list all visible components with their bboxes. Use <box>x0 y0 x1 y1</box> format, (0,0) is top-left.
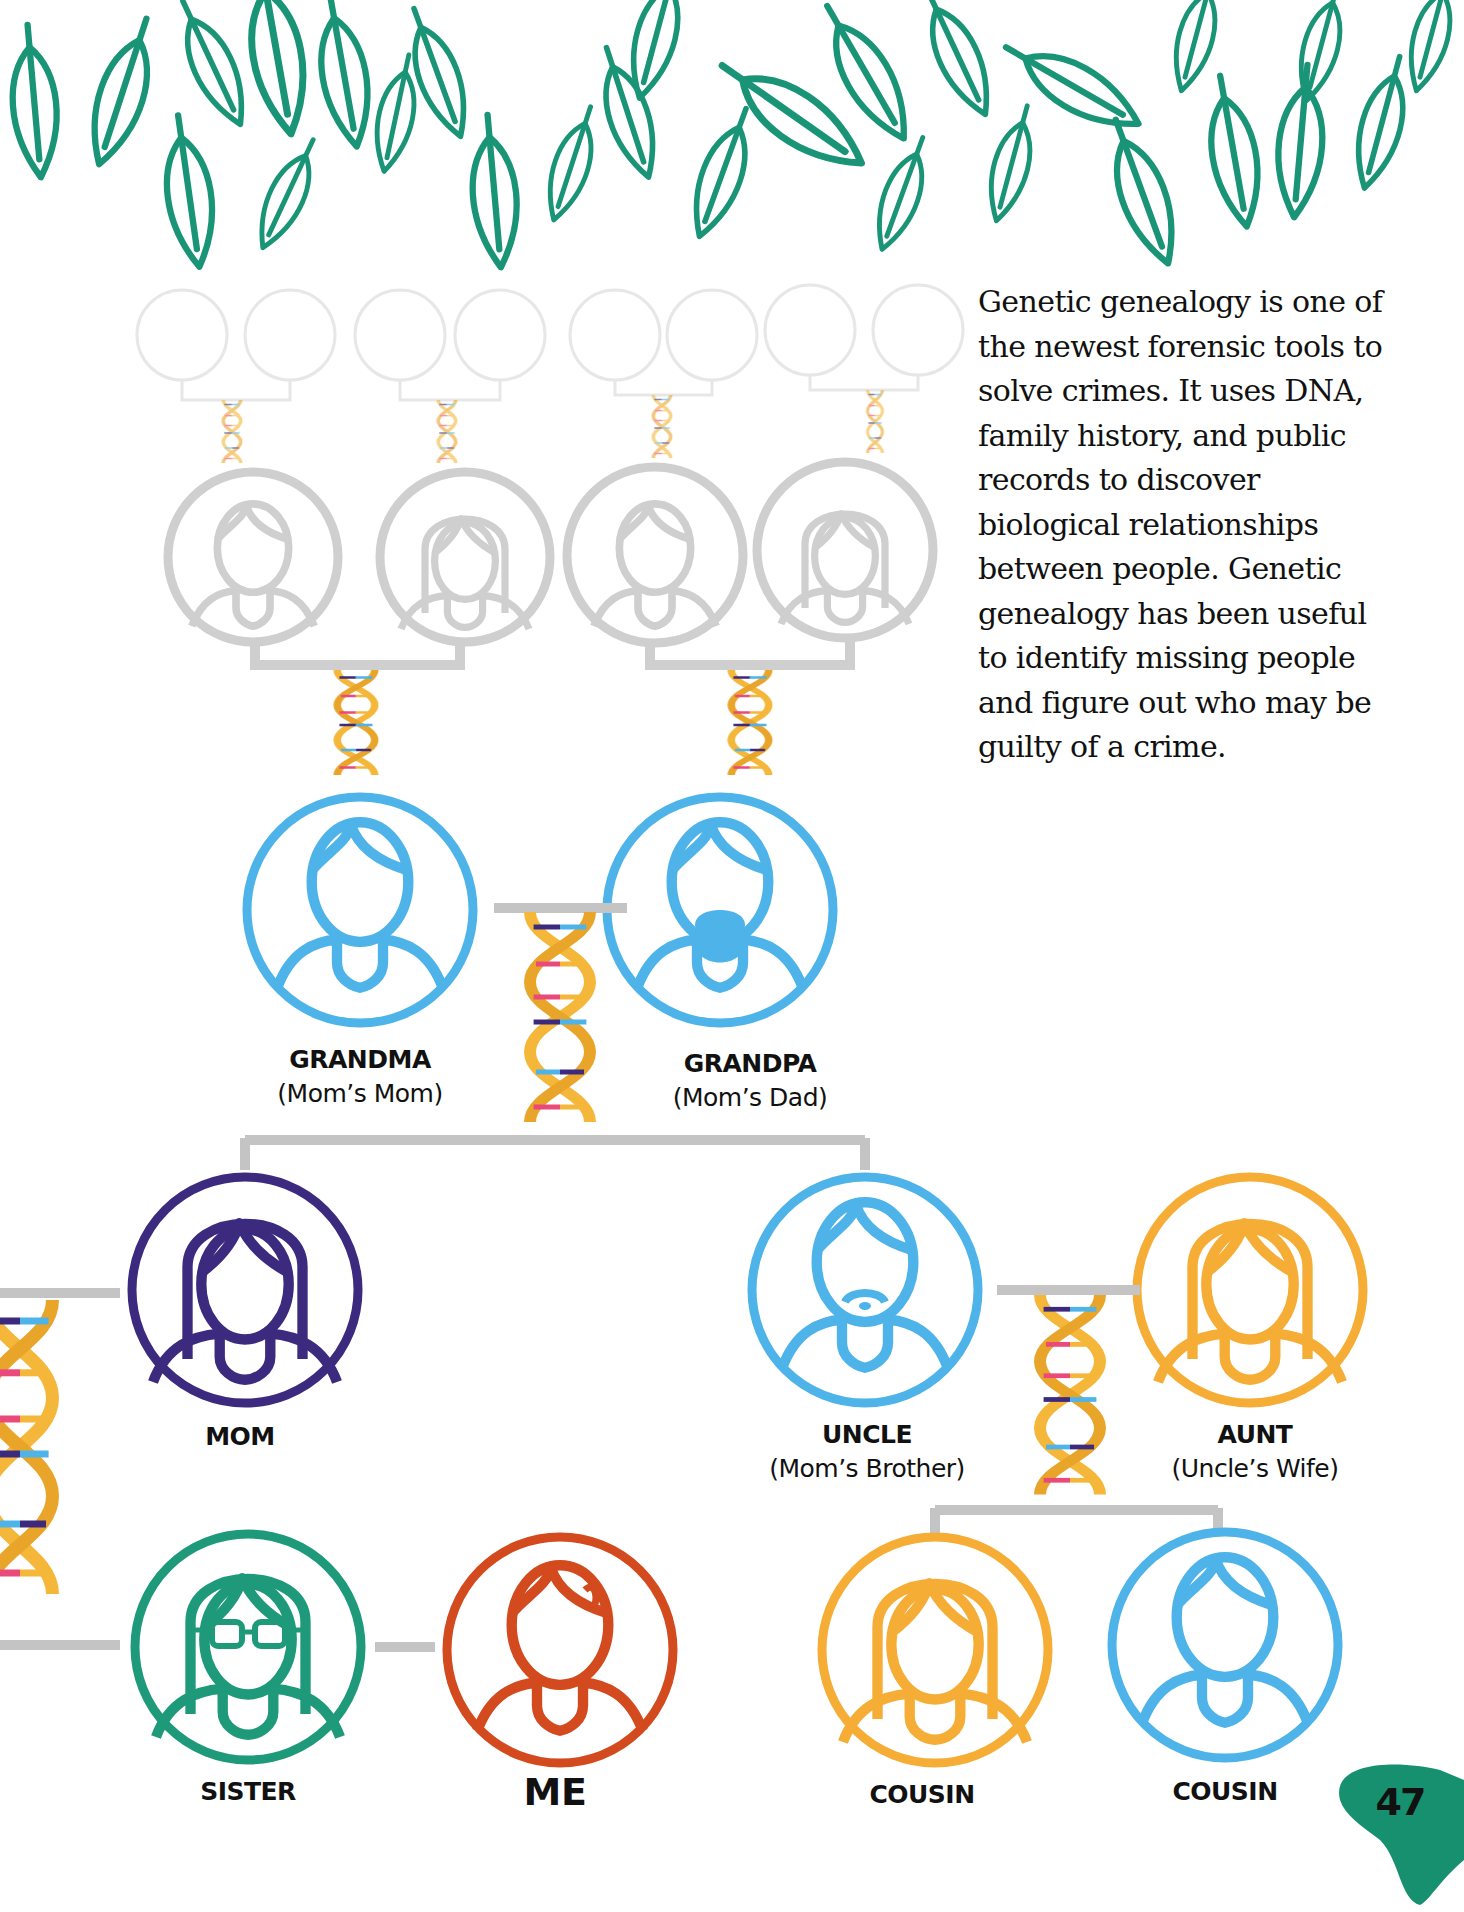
mom-children-connector <box>0 1640 120 1650</box>
dna-strand-icon <box>337 670 375 775</box>
grandpa-title: GRANDPA <box>684 1049 817 1078</box>
aunt-title: AUNT <box>1218 1420 1293 1449</box>
uncle-title: UNCLE <box>822 1420 912 1449</box>
cousin-male-avatar <box>1112 1532 1338 1758</box>
cousin-female-avatar <box>822 1537 1048 1763</box>
dna-strand-icon <box>530 912 590 1122</box>
faded-ancestors-row <box>137 285 963 400</box>
page-number: 47 <box>1350 1780 1450 1824</box>
uncle-label: UNCLE (Mom’s Brother) <box>769 1418 965 1486</box>
grandma-avatar <box>247 797 473 1023</box>
uncle-avatar <box>752 1177 978 1403</box>
cousins-connector <box>935 1508 1218 1535</box>
mom-title: MOM <box>205 1422 275 1451</box>
cousin-male-label: COUSIN <box>1172 1775 1277 1809</box>
grandparents-connector <box>494 903 627 913</box>
uncle-aunt-connector <box>997 1285 1140 1295</box>
dna-strand-icon <box>1040 1295 1100 1495</box>
faded-dna-strands <box>223 390 882 463</box>
cousin-male-title: COUSIN <box>1172 1777 1277 1806</box>
faded-great-grandparents-row <box>168 462 933 665</box>
sister-title: SISTER <box>200 1777 296 1806</box>
sister-avatar <box>135 1534 361 1760</box>
sister-label: SISTER <box>200 1775 296 1809</box>
grandma-subtitle: (Mom’s Mom) <box>277 1077 442 1111</box>
mom-spouse-connector <box>0 1288 120 1298</box>
sister-me-connector <box>375 1642 435 1652</box>
aunt-avatar <box>1137 1177 1363 1403</box>
me-title: ME <box>524 1770 587 1814</box>
aunt-label: AUNT (Uncle’s Wife) <box>1172 1418 1339 1486</box>
grandpa-label: GRANDPA (Mom’s Dad) <box>673 1047 828 1115</box>
grandpa-subtitle: (Mom’s Dad) <box>673 1081 828 1115</box>
children-connector <box>245 1138 865 1170</box>
grandma-label: GRANDMA (Mom’s Mom) <box>277 1043 442 1111</box>
cousin-female-title: COUSIN <box>869 1780 974 1809</box>
mom-label: MOM <box>205 1420 275 1454</box>
aunt-subtitle: (Uncle’s Wife) <box>1172 1452 1339 1486</box>
grandpa-avatar <box>607 797 833 1023</box>
me-avatar <box>447 1537 673 1763</box>
cousin-female-label: COUSIN <box>869 1778 974 1812</box>
grandma-title: GRANDMA <box>289 1045 431 1074</box>
dna-strand-icon <box>731 670 769 775</box>
mom-avatar <box>132 1177 358 1403</box>
dna-strand-icon <box>0 1300 53 1594</box>
me-label: ME <box>524 1775 587 1809</box>
intro-paragraph: Genetic genealogy is one of the newest f… <box>978 280 1398 770</box>
uncle-subtitle: (Mom’s Brother) <box>769 1452 965 1486</box>
